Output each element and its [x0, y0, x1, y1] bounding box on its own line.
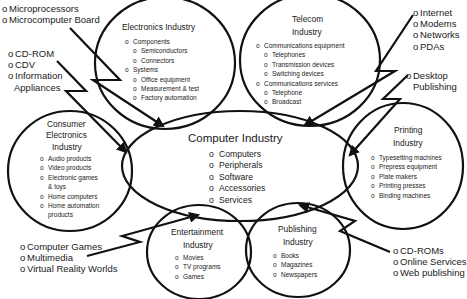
printing-list: Typesetting machines Prepress equipment …: [371, 155, 442, 202]
cdrom-item: Information: [8, 71, 63, 82]
center-title: Computer Industry: [188, 133, 283, 145]
list-item: Binding machines: [371, 193, 442, 202]
electronics-list: Components Semiconductors Connectors Sys…: [125, 39, 199, 105]
publishing-circle: [246, 203, 350, 297]
entertainment-list: Movies TV programs Games: [175, 255, 221, 283]
cdrom-labels: CD-ROM CDV Information Appliances: [8, 49, 63, 94]
consumer-title-line1: Consumer: [47, 120, 86, 128]
consumer-title-line3: Industry: [52, 143, 82, 151]
consumer-title-line2: Electronics: [46, 131, 87, 139]
entertainment-circle: [147, 205, 251, 299]
list-item: Accessories: [209, 184, 265, 195]
publishing-title-line2: Industry: [283, 238, 313, 246]
center-list: Computers Peripherals Software Accessori…: [209, 150, 265, 207]
list-item: Newspapers: [273, 272, 317, 281]
games-labels: Computer Games Multimedia Virtual Realit…: [20, 242, 117, 276]
list-item: Services: [209, 196, 265, 207]
telecom-list: Communications equipment Telephones Tran…: [256, 43, 345, 109]
online-item: Web publishing: [393, 268, 467, 279]
publishing-list: Books Magazines Newspapers: [273, 253, 317, 281]
cdrom-item: Appliances: [8, 83, 63, 94]
micro-item: Microcomputer Board: [2, 15, 100, 26]
entertainment-title-line2: Industry: [183, 241, 213, 249]
internet-labels: Internet Modems Networks PDAs: [413, 8, 460, 53]
desktop-labels: Desktop Publishing: [406, 71, 457, 93]
publishing-title-line1: Publishing: [278, 225, 317, 233]
printing-title-line1: Printing: [394, 126, 422, 134]
online-labels: CD-ROMs Online Services Web publishing: [393, 246, 467, 280]
consumer-list: Audio products Video products Electronic…: [40, 156, 99, 222]
printing-title-line2: Industry: [393, 139, 423, 147]
list-item: products: [40, 212, 99, 221]
electronics-title: Electronics Industry: [122, 23, 195, 31]
telecom-title-line2: Industry: [292, 28, 322, 36]
telecom-title-line1: Telecom: [292, 15, 323, 23]
internet-item: Networks: [413, 30, 460, 41]
entertainment-title-line1: Entertainment: [171, 228, 223, 236]
list-item: Broadcast: [256, 99, 345, 108]
micro-labels: Microprocessors Microcomputer Board: [2, 4, 100, 26]
desktop-item: Publishing: [406, 82, 457, 93]
games-item: Virtual Reality Worlds: [20, 264, 117, 275]
internet-item: PDAs: [413, 42, 460, 53]
list-item: Games: [175, 274, 221, 283]
list-item: Factory automation: [125, 95, 199, 104]
